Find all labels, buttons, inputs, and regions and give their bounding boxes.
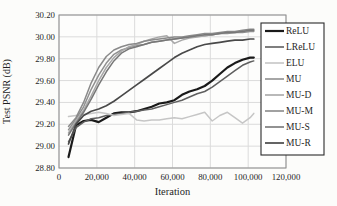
y-axis-label: Test PSNR (dB) bbox=[1, 59, 13, 124]
legend-label-mu-r: MU-R bbox=[286, 138, 311, 148]
legend-label-lrelu: LReLU bbox=[286, 42, 315, 52]
y-tick-label: 29.40 bbox=[35, 97, 55, 107]
y-tick-label: 30.00 bbox=[35, 32, 55, 42]
legend-label-mu-m: MU-M bbox=[286, 106, 313, 116]
x-tick-label: 40,000 bbox=[123, 172, 148, 182]
psnr-line-chart: 28.8029.0029.2029.4029.6029.8030.0030.20… bbox=[0, 0, 337, 206]
x-axis-label: Iteration bbox=[155, 186, 191, 197]
legend-label-elu: ELU bbox=[286, 58, 305, 68]
y-tick-label: 28.80 bbox=[35, 163, 55, 173]
y-tick-label: 29.80 bbox=[35, 54, 55, 64]
x-tick-label: 100,000 bbox=[234, 172, 263, 182]
y-tick-label: 29.60 bbox=[35, 76, 55, 86]
legend-label-mu: MU bbox=[286, 74, 301, 84]
y-tick-label: 29.20 bbox=[35, 119, 55, 129]
legend-label-relu: ReLU bbox=[286, 26, 309, 36]
legend-label-mu-d: MU-D bbox=[286, 90, 311, 100]
y-tick-label: 29.00 bbox=[35, 141, 55, 151]
x-tick-label: 80,000 bbox=[198, 172, 223, 182]
x-tick-label: 60,000 bbox=[160, 172, 185, 182]
y-tick-label: 30.20 bbox=[35, 10, 55, 20]
legend-label-mu-s: MU-S bbox=[286, 122, 310, 132]
x-tick-label: 20,000 bbox=[85, 172, 110, 182]
x-tick-label: 0 bbox=[57, 172, 62, 182]
figure: 28.8029.0029.2029.4029.6029.8030.0030.20… bbox=[0, 0, 337, 206]
x-tick-label: 120,000 bbox=[272, 172, 301, 182]
